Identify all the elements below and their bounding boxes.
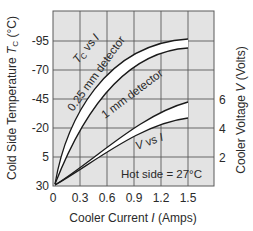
y-axis-label: Cold Side Temperature TC (°C) [5, 16, 20, 180]
y-axis-ticks: -95 -70 -45 -20 5 30 [32, 34, 50, 193]
y-tick: -95 [32, 34, 50, 48]
y2-tick: 2 [219, 151, 226, 165]
x-tick: 1.2 [153, 191, 170, 205]
y-tick: -70 [32, 63, 50, 77]
x-tick: 1.5 [180, 191, 197, 205]
annotation-hot-side: Hot side = 27°C [121, 168, 202, 180]
y-tick: 5 [42, 150, 49, 164]
chart: TC vs I 0.25 mm detector 1 mm detector V… [0, 0, 253, 231]
x-tick: 0.3 [72, 191, 89, 205]
y2-tick: 4 [219, 122, 226, 136]
x-tick: 0 [50, 191, 57, 205]
x-axis-ticks: 0 0.3 0.6 0.9 1.2 1.5 [50, 191, 197, 205]
y2-axis-ticks: 6 4 2 [219, 93, 226, 165]
y-tick: -20 [32, 121, 50, 135]
x-tick: 0.6 [99, 191, 116, 205]
y-tick: 30 [36, 179, 50, 193]
x-tick: 0.9 [126, 191, 143, 205]
x-axis-label: Cooler Current I (Amps) [69, 211, 196, 225]
y-tick: -45 [32, 92, 50, 106]
y2-tick: 6 [219, 93, 226, 107]
y2-axis-label: Cooler Voltage V (Volts) [234, 46, 248, 173]
